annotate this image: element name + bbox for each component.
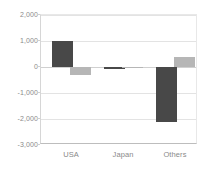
y-tickmark [37, 144, 40, 145]
y-tick-label: 0 [2, 63, 38, 70]
y-tick-label: 1,000 [2, 37, 38, 44]
bar-chart: 2,000 1,000 0 -1,000 -2,000 -3,000 U [0, 0, 210, 176]
y-tick-label: -1,000 [2, 89, 38, 96]
x-axis: USA Japan Others [40, 150, 197, 164]
y-axis: 2,000 1,000 0 -1,000 -2,000 -3,000 [0, 14, 38, 144]
x-tick-label-usa: USA [46, 150, 96, 159]
bar-usa-series1 [52, 41, 73, 67]
y-tick-label: -2,000 [2, 115, 38, 122]
gridline-2000 [41, 15, 196, 16]
bar-others-series2 [174, 57, 195, 67]
x-tick-label-japan: Japan [98, 150, 148, 159]
bar-japan-series2 [122, 67, 143, 68]
x-tick-label-others: Others [150, 150, 200, 159]
plot-area [40, 14, 197, 144]
bar-usa-series2 [70, 67, 91, 75]
y-tick-label: -3,000 [2, 141, 38, 148]
bar-others-series1 [156, 67, 177, 122]
y-tick-label: 2,000 [2, 11, 38, 18]
